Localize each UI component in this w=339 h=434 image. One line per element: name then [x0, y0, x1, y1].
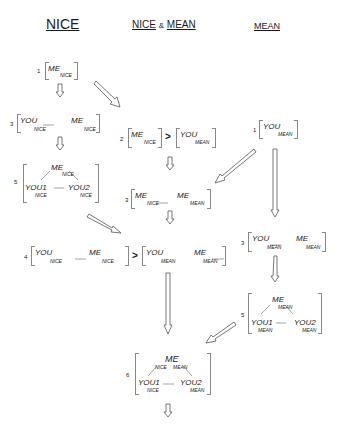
- arrow-diagonal-icon: [87, 214, 121, 233]
- me-mean-label: ME: [194, 248, 206, 257]
- step-number: 5: [14, 179, 17, 185]
- arrow-diagonal-icon: [94, 81, 120, 107]
- me-label: ME: [131, 130, 143, 139]
- step-number: 3: [125, 197, 128, 203]
- arrow-down-icon: [56, 84, 64, 97]
- you-nice-subscript: NICE: [50, 258, 62, 264]
- greater-than-symbol: >: [132, 250, 138, 261]
- arrow-down-icon: [164, 273, 172, 334]
- you2-label: YOU2: [294, 318, 316, 327]
- you-label: YOU: [263, 122, 280, 131]
- step-number: 3: [241, 240, 244, 246]
- arrow-diagonal-icon: [215, 149, 256, 183]
- arrow-down-icon: [166, 211, 174, 224]
- arrow-down-icon: [271, 149, 279, 217]
- me-subscript: NICE: [60, 72, 72, 78]
- me-nice-subscript: NICE: [155, 364, 167, 370]
- you2-label: YOU2: [180, 378, 202, 387]
- me-subscript: MEAN: [306, 244, 320, 250]
- step-number: 1: [37, 68, 40, 74]
- step-number: 1: [253, 127, 256, 133]
- you-label: YOU: [180, 130, 197, 139]
- me-subscript: MEAN: [278, 304, 292, 310]
- me-mean-subscript: MEAN: [203, 258, 217, 264]
- me-subscript: NICE: [84, 126, 96, 132]
- you-nice-label: YOU: [35, 248, 52, 257]
- arrow-down-icon: [271, 256, 279, 282]
- arrow-down-icon: [166, 157, 174, 170]
- step-number: 2: [120, 136, 123, 142]
- you2-subscript: MEAN: [190, 387, 204, 393]
- you1-subscript: MEAN: [258, 327, 272, 333]
- you-mean-label: YOU: [146, 248, 163, 257]
- you1-label: YOU1: [251, 318, 273, 327]
- step-number: 4: [24, 254, 27, 260]
- me-label: ME: [296, 234, 308, 243]
- me-subscript: NICE: [62, 171, 74, 177]
- you2-subscript: NICE: [80, 192, 92, 198]
- arrow-down-icon: [56, 137, 64, 150]
- you1-label: YOU1: [138, 378, 160, 387]
- me-subscript: NICE: [144, 139, 156, 145]
- step-number: 6: [126, 372, 129, 378]
- me-nice-label: ME: [135, 191, 147, 200]
- me-mean-label: ME: [177, 191, 189, 200]
- me-nice-subscript: NICE: [147, 200, 159, 206]
- me-nice-label: ME: [89, 248, 101, 257]
- you1-label: YOU1: [25, 183, 47, 192]
- me-label: ME: [165, 354, 179, 364]
- you2-label: YOU2: [68, 183, 90, 192]
- me-label: ME: [272, 295, 284, 304]
- you1-subscript: NICE: [147, 387, 159, 393]
- arrow-down-icon: [164, 404, 172, 417]
- me-nice-subscript: NICE: [102, 258, 114, 264]
- me-label: ME: [71, 116, 83, 125]
- you-mean-subscript: MEAN: [161, 258, 175, 264]
- you-label: YOU: [252, 234, 269, 243]
- you-subscript: NICE: [34, 126, 46, 132]
- you-label: YOU: [20, 116, 37, 125]
- me-mean-subscript: MEAN: [173, 364, 187, 370]
- me-mean-subscript: MEAN: [190, 200, 204, 206]
- you-subscript: MEAN: [278, 131, 292, 137]
- step-number: 3: [10, 121, 13, 127]
- me-label: ME: [48, 64, 60, 73]
- you1-subscript: NICE: [35, 192, 47, 198]
- step-number: 5: [241, 312, 244, 318]
- greater-than-symbol: >: [165, 131, 171, 142]
- arrow-diagonal-icon: [206, 322, 236, 343]
- you2-subscript: MEAN: [302, 327, 316, 333]
- you-subscript: MEAN: [267, 244, 281, 250]
- you-subscript: MEAN: [195, 139, 209, 145]
